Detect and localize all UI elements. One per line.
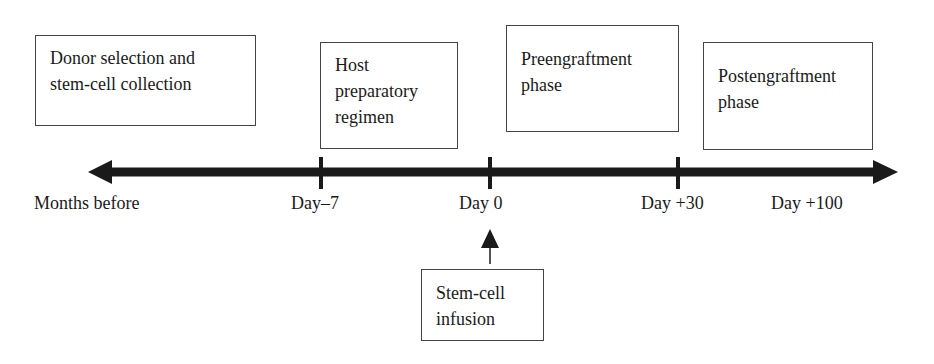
left-arrowhead-icon [88,160,112,184]
right-arrowhead-icon [873,160,898,184]
phase-label: Host [335,52,443,78]
infusion-arrowhead-icon [481,229,499,248]
phase-label: stem-cell collection [50,71,241,97]
phase-box-donor-selection: Donor selection and stem-cell collection [35,35,256,126]
event-box-stem-cell-infusion: Stem-cell infusion [421,269,544,341]
phase-label: Postengraftment [718,63,858,89]
timeline-label-day-30: Day +30 [641,193,704,214]
phase-box-postengraftment: Postengraftment phase [703,42,873,150]
timeline-label-day-0: Day 0 [459,193,503,214]
event-label: infusion [436,306,529,332]
timeline-label-day-100: Day +100 [771,193,843,214]
timeline-label-months-before: Months before [34,193,139,214]
phase-label: phase [521,72,664,98]
phase-label: Preengraftment [521,46,664,72]
timeline-label-day-minus-7: Day–7 [291,193,339,214]
event-label: Stem-cell [436,280,529,306]
phase-label: Donor selection and [50,45,241,71]
phase-label: phase [718,89,858,115]
phase-label: preparatory [335,78,443,104]
phase-box-preengraftment: Preengraftment phase [506,25,679,132]
phase-box-host-preparatory: Host preparatory regimen [320,42,458,149]
phase-label: regimen [335,104,443,130]
